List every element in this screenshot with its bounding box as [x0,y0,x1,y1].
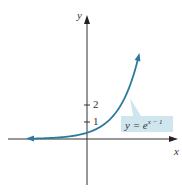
y-tick-label-1: 1 [93,116,99,127]
curve-left-arrow-icon [26,136,34,142]
x-axis-arrow-icon [169,136,178,142]
y-axis-label: y [77,10,82,21]
callout-pointer [130,98,141,116]
y-axis-arrow-icon [84,15,90,24]
graph-canvas [0,0,182,192]
equation-exponent: x − 1 [148,118,163,126]
equation-label: y = ex − 1 [125,118,163,131]
equation-base: y = e [125,119,148,131]
y-tick-label-2: 2 [93,99,99,110]
curve-right-arrow-icon [135,53,141,61]
x-axis-label: x [174,146,179,157]
